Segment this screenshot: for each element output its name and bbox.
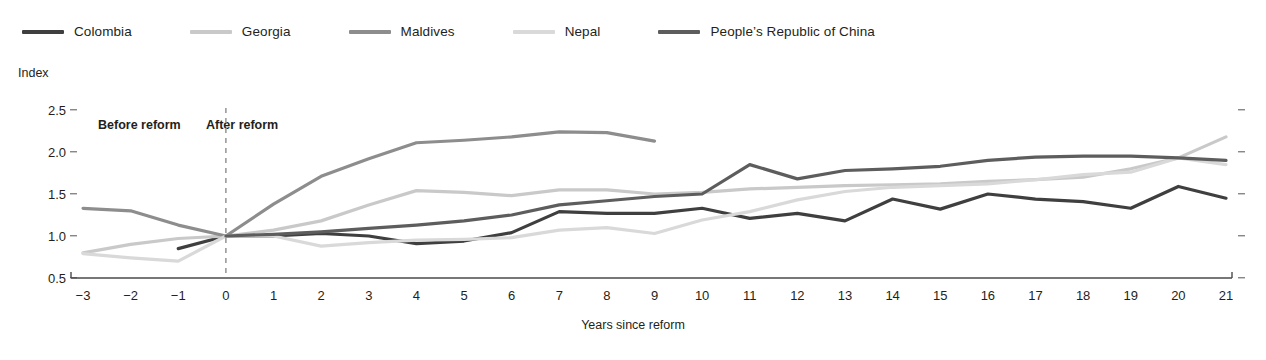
line-chart-svg: [0, 60, 1266, 360]
legend-swatch-icon: [190, 30, 232, 34]
legend-label: Nepal: [565, 24, 601, 39]
series-line-people-s-republic-of-china: [226, 156, 1226, 236]
legend-item-georgia[interactable]: Georgia: [190, 24, 291, 39]
legend-label: Colombia: [74, 24, 132, 39]
clipped-caption: [150, 0, 1050, 3]
plot-area: Index 0.51.01.52.02.5 −3−2−1012345678910…: [0, 60, 1266, 360]
chart-legend: ColombiaGeorgiaMaldivesNepalPeople’s Rep…: [22, 24, 875, 39]
chart-page: ColombiaGeorgiaMaldivesNepalPeople’s Rep…: [0, 0, 1266, 360]
series-line-nepal: [83, 158, 1226, 261]
legend-label: People’s Republic of China: [710, 24, 874, 39]
legend-item-nepal[interactable]: Nepal: [513, 24, 601, 39]
legend-item-colombia[interactable]: Colombia: [22, 24, 132, 39]
legend-swatch-icon: [22, 30, 64, 34]
legend-swatch-icon: [658, 30, 700, 34]
legend-swatch-icon: [513, 30, 555, 34]
legend-swatch-icon: [349, 30, 391, 34]
legend-item-people-s-republic-of-china[interactable]: People’s Republic of China: [658, 24, 874, 39]
series-line-maldives: [83, 132, 655, 236]
legend-item-maldives[interactable]: Maldives: [349, 24, 455, 39]
legend-label: Georgia: [242, 24, 291, 39]
legend-label: Maldives: [401, 24, 455, 39]
